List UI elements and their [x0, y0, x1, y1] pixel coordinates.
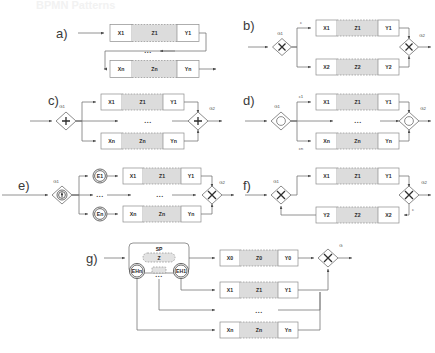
panel-d-join-bottom-flow: [399, 130, 409, 141]
panel-b-row-1: X1 Z1 Y1: [316, 20, 399, 36]
panel-g-middle-branch-flow: [159, 279, 215, 310]
panel-c-row-1: X1 Z1 Y1: [101, 94, 184, 110]
panel-g-row-0: X0 Z0 Y0: [220, 250, 298, 266]
task-label: Y1: [188, 173, 194, 179]
panel-e-join-top-flow: [201, 176, 212, 187]
panel-c: c) G1 ... X1 Z1 Y1 Xn Zn Yn: [30, 93, 222, 149]
task-label: X1: [323, 173, 329, 179]
inclusive-circle-icon: [277, 117, 286, 126]
gateway-G1: G1: [271, 179, 291, 204]
subprocess-SP: SP Z ... EHn EH1: [129, 243, 189, 279]
panel-e-join-bottom-flow: [201, 204, 212, 214]
panel-c-ellipsis: ...: [144, 117, 152, 124]
inclusive-circle-icon: [405, 117, 414, 126]
panel-b-row-2: X2 Z2 Y2: [316, 59, 399, 75]
task-label: Yn: [170, 138, 177, 144]
gateway-G1: G1: [56, 104, 76, 130]
middle-label: Z1: [151, 30, 157, 36]
task-label: Yn: [285, 327, 292, 333]
middle-label: Z1: [159, 173, 165, 179]
panel-a: a) X1 Z1 Y1 ... Xn Zn Yn: [56, 25, 216, 78]
panel-d-label: d): [243, 93, 255, 108]
event-E1: E1: [93, 169, 107, 183]
task-label: Y2: [323, 212, 329, 218]
panel-d-edge-label-c1: c1: [299, 94, 304, 99]
panel-e-row-2: Xn Zn Yn: [123, 206, 201, 222]
task-label: Y1: [385, 25, 391, 31]
middle-label: Z1: [354, 25, 360, 31]
panel-f-row-2: Y2 Z2 X2: [316, 207, 399, 223]
middle-label: Zn: [139, 138, 145, 144]
panel-g-row-1: X1 Z1 Y1: [220, 282, 298, 298]
panel-a-row-1: X1 Z1 Y1: [110, 25, 199, 42]
panel-c-bottom-branch-flow: [76, 121, 96, 141]
gateway-label: G2: [219, 180, 225, 185]
gateway-label: G2: [419, 33, 425, 38]
panel-b-join-bottom-flow: [399, 56, 409, 67]
panel-e-row-1: X1 Z1 Y1: [123, 168, 201, 184]
gateway-G1: G1: [273, 31, 292, 56]
task-label: Y2: [385, 64, 391, 70]
middle-label: Zn: [354, 138, 360, 144]
gateway-label: G1: [59, 104, 65, 109]
middle-label: Zn: [151, 66, 157, 72]
panel-f-label: f): [243, 178, 251, 193]
panel-c-row-2: Xn Zn Yn: [101, 133, 184, 149]
middle-label: Zn: [159, 211, 165, 217]
panel-b-bottom-branch-flow: [292, 47, 312, 67]
panel-e-bottom-branch-flow: [72, 195, 88, 214]
middle-label: Z0: [256, 255, 262, 261]
panel-b-label: b): [243, 18, 255, 33]
gateway-G2: G2: [400, 33, 426, 56]
panel-d-bottom-branch-flow: [291, 121, 311, 141]
task-label: Y1: [385, 173, 391, 179]
gateway-G1: G1: [271, 104, 291, 130]
watermark-title: BPMN Patterns: [36, 0, 115, 11]
panel-e: e) G1 ... E1 En X1: [2, 168, 234, 222]
panel-g-ellipsis: ...: [255, 307, 263, 314]
panel-e-top-branch-flow: [72, 176, 88, 195]
panel-f-row-1: X1 Z1 Y1: [316, 168, 399, 184]
panel-d-ellipsis: ...: [354, 117, 362, 124]
task-label: Y1: [285, 287, 291, 293]
middle-label: Z1: [354, 173, 360, 179]
panel-d-row-1: X1 Z1 Y1: [316, 94, 399, 110]
panel-g-label: g): [86, 251, 98, 266]
gateway-label: G1: [274, 104, 280, 109]
panel-f-loopback-entry-flow: [404, 204, 409, 215]
event-En: En: [93, 207, 107, 221]
task-label: Y0: [285, 255, 291, 261]
gateway-label: G2: [209, 106, 215, 111]
task-label: Y1: [170, 99, 176, 105]
gateway-label: G1: [277, 31, 283, 36]
task-label: X1: [118, 30, 124, 36]
gateway-G1: G1: [52, 179, 72, 204]
gateway-label: G2: [420, 106, 426, 111]
panel-d: d) G1 c1 cn ... X1 Z1 Y1 Xn Zn: [243, 93, 431, 151]
task-label: X1: [227, 287, 233, 293]
panel-b: b) G1 c X1 Z1 Y1 X2 Z2 Y2: [243, 18, 431, 75]
gateway-label: G2: [421, 180, 427, 185]
task-label: Xn: [323, 138, 330, 144]
middle-label: Z2: [354, 212, 360, 218]
task-label: Y1: [185, 30, 191, 36]
subprocess-ellipsis: ...: [155, 271, 163, 278]
task-label: Yn: [385, 138, 392, 144]
panel-g-row-n: Xn Zn Yn: [220, 322, 298, 338]
task-label: X1: [323, 25, 329, 31]
panel-e-ellipsis-mid: ...: [156, 191, 164, 198]
task-label: X2: [323, 64, 329, 70]
gateway-label: G: [339, 243, 343, 248]
panel-b-join-top-flow: [399, 28, 409, 39]
task-label: X1: [323, 99, 329, 105]
panel-g-eh1-to-x1-flow: [181, 279, 215, 290]
middle-label: Z2: [354, 64, 360, 70]
gateway-G2: G2: [188, 106, 215, 130]
task-label: Xn: [227, 327, 234, 333]
panel-g-ehn-to-xn-flow: [137, 279, 215, 330]
gateway-label: G1: [273, 179, 279, 184]
task-label: Xn: [118, 66, 125, 72]
middle-label: Z1: [256, 287, 262, 293]
panel-f-join-top-flow: [399, 176, 409, 187]
panel-f: f) G1 X1 Z1 Y1 G2 c Y2: [243, 168, 431, 223]
